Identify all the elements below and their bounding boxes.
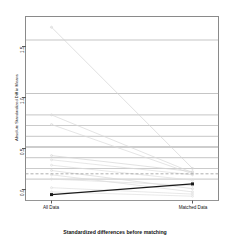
y-tick-mark (22, 97, 26, 98)
y-tick-label: 1.5 (20, 47, 25, 61)
x-tick-label-all-data: All Data (43, 205, 59, 210)
plot-area (0, 0, 230, 240)
highlight-point-marker (191, 182, 194, 185)
y-tick-label: 0.5 (20, 149, 25, 163)
y-tick-mark (22, 148, 26, 149)
y-tick-mark (22, 189, 26, 190)
y-tick-label: 0.0 (20, 190, 25, 204)
chart-caption: Standardized differences before matching (0, 229, 230, 235)
x-tick-label-matched-data: Matched Data (179, 205, 208, 210)
y-tick-mark (22, 46, 26, 47)
y-tick-label: 1.0 (20, 98, 25, 112)
y-axis-ticks: 1.5 1.0 0.5 0.0 (4, 0, 22, 240)
highlight-point-marker (50, 193, 53, 196)
chart-figure: Absolute Standardized Diff in Means 1.5 … (0, 0, 230, 240)
